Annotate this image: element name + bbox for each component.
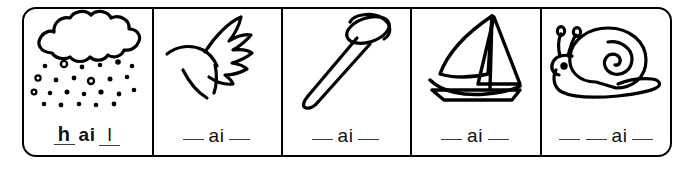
blank-after-1	[229, 124, 250, 140]
word-snail[interactable]: ai	[540, 124, 672, 146]
blank-before-1	[559, 124, 580, 140]
phoneme-ai: ai	[207, 125, 227, 146]
cell-hail[interactable]: hail	[22, 7, 152, 157]
blank-before-2	[586, 124, 607, 140]
word-nail[interactable]: ai	[281, 124, 410, 146]
word-hail[interactable]: hail	[22, 124, 152, 146]
word-wing[interactable]: ai	[152, 124, 281, 146]
hail-cloud-picture	[22, 7, 152, 113]
blank-before-1	[312, 124, 333, 140]
ai-phonics-worksheet: hail ai	[0, 0, 694, 172]
wing-icon	[159, 8, 275, 112]
snail-icon	[544, 8, 668, 112]
phoneme-ai: ai	[465, 125, 485, 146]
wing-picture	[152, 7, 281, 113]
nail-picture	[281, 7, 410, 113]
sailboat-icon	[416, 8, 534, 112]
cell-sail[interactable]: ai	[410, 7, 540, 157]
snail-picture	[540, 7, 672, 113]
hail-cloud-icon	[28, 8, 146, 112]
letter-l: l	[99, 125, 120, 146]
phoneme-ai: ai	[610, 125, 630, 146]
phoneme-ai: ai	[336, 125, 356, 146]
sailboat-picture	[410, 7, 540, 113]
blank-after-1	[488, 124, 509, 140]
cell-snail[interactable]: ai	[540, 7, 672, 157]
blank-after-1	[632, 124, 653, 140]
cell-nail[interactable]: ai	[281, 7, 410, 157]
cell-wing[interactable]: ai	[152, 7, 281, 157]
blank-before-1	[183, 124, 204, 140]
letter-h: h	[54, 124, 75, 145]
nail-icon	[288, 8, 404, 112]
word-sail[interactable]: ai	[410, 124, 540, 146]
phoneme-ai: ai	[77, 124, 98, 145]
blank-after-1	[358, 124, 379, 140]
hailstones	[32, 59, 137, 107]
blank-before-1	[441, 124, 462, 140]
